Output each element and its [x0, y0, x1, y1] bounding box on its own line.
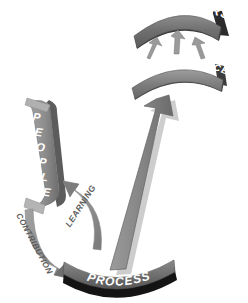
cycle-diagram-canvas: CUSTOMERS GOODS / SERVICES	[0, 0, 248, 303]
contribution-label: CONTRIBUTION	[14, 212, 54, 277]
business-cycle-diagram: CUSTOMERS GOODS / SERVICES	[0, 0, 248, 303]
small-arrow-icon	[192, 37, 205, 59]
node-people: P E O P L E	[24, 98, 66, 214]
connector-learning: LEARNING	[63, 181, 101, 250]
node-goods-services: GOODS / SERVICES	[0, 0, 231, 100]
people-letter: O	[35, 140, 46, 153]
node-customers: CUSTOMERS	[134, 1, 233, 49]
small-arrow-icon	[171, 30, 185, 54]
connector-process-to-goods	[110, 95, 179, 275]
